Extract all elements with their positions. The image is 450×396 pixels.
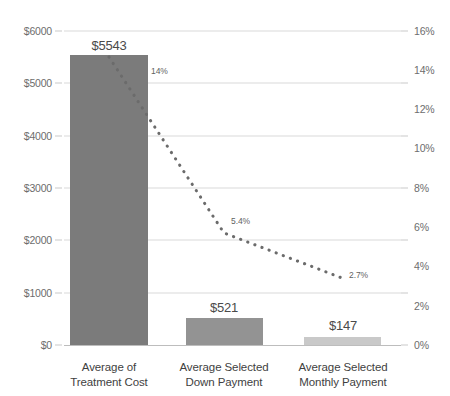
x-axis-label-treatment-cost: Average of Treatment Cost [70, 360, 147, 390]
y-axis-right-label-2: 2% [414, 300, 450, 312]
bar-monthly-payment[interactable] [304, 337, 381, 345]
chart-container: $6000 $5000 $4000 $3000 $2000 $1000 $0 1… [0, 0, 450, 396]
tickmark-right-16 [401, 31, 408, 32]
bar-value-label-treatment-cost: $5543 [91, 38, 126, 53]
bar-value-label-down-payment: $521 [210, 300, 238, 315]
tickmark-right-12 [401, 136, 408, 137]
tickmark-left-3000 [55, 188, 62, 189]
bar-treatment-cost[interactable] [70, 55, 148, 345]
y-axis-right-label-14: 14% [414, 64, 450, 76]
x-axis-label-line1: Average of [82, 361, 136, 373]
y-axis-left-label-2000: $2000 [0, 234, 52, 246]
y-axis-right-label-12: 12% [414, 103, 450, 115]
gridline-6000 [64, 31, 401, 32]
x-axis-label-monthly-payment: Average Selected Monthly Payment [299, 360, 388, 390]
y-axis-right-label-10: 10% [414, 142, 450, 154]
y-axis-right-label-4: 4% [414, 260, 450, 272]
point-label-14-percent: 14% [151, 66, 168, 76]
tickmark-left-4000 [55, 136, 62, 137]
y-axis-left-label-3000: $3000 [0, 182, 52, 194]
tickmark-right-8 [401, 240, 408, 241]
y-axis-right-label-8: 8% [414, 182, 450, 194]
bar-down-payment[interactable] [186, 318, 263, 345]
y-axis-right-label-0: 0% [414, 339, 450, 351]
tickmark-left-6000 [55, 31, 62, 32]
x-axis-label-line1: Average Selected [299, 361, 388, 373]
tickmark-left-5000 [55, 83, 62, 84]
y-axis-left-label-5000: $5000 [0, 77, 52, 89]
bar-value-label-monthly-payment: $147 [329, 318, 357, 333]
y-axis-left-label-1000: $1000 [0, 287, 52, 299]
axis-baseline [64, 345, 401, 346]
y-axis-left-label-0: $0 [0, 339, 52, 351]
y-axis-left-label-6000: $6000 [0, 25, 52, 37]
tickmark-left-2000 [55, 240, 62, 241]
tickmark-right-14 [401, 83, 408, 84]
tickmark-right-6 [401, 293, 408, 294]
point-label-5-4-percent: 5.4% [231, 216, 250, 226]
x-axis-label-line2: Treatment Cost [70, 375, 147, 390]
x-axis-label-down-payment: Average Selected Down Payment [180, 360, 269, 390]
x-axis-label-line1: Average Selected [180, 361, 269, 373]
x-axis-label-line2: Down Payment [180, 375, 269, 390]
tickmark-left-1000 [55, 293, 62, 294]
y-axis-left-label-4000: $4000 [0, 130, 52, 142]
tickmark-right-4 [401, 345, 408, 346]
tickmark-right-10 [401, 188, 408, 189]
x-axis-label-line2: Monthly Payment [299, 375, 388, 390]
y-axis-right-label-16: 16% [414, 25, 450, 37]
point-label-2-7-percent: 2.7% [349, 270, 368, 280]
tickmark-left-0 [55, 345, 62, 346]
y-axis-right-label-6: 6% [414, 221, 450, 233]
